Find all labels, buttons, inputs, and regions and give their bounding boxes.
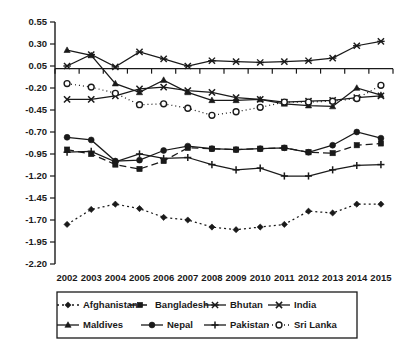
data-point [137, 166, 142, 171]
data-point [330, 150, 335, 155]
legend-marker [137, 302, 142, 307]
x-tick-label: 2013 [322, 272, 343, 283]
x-tick-label: 2011 [274, 272, 295, 283]
y-tick-label: 0.05 [29, 60, 48, 71]
y-tick-label: -1.95 [25, 236, 47, 247]
x-tick-label: 2004 [105, 272, 127, 283]
data-point [64, 134, 70, 140]
legend-label: Sri Lanka [294, 319, 337, 330]
data-point [185, 143, 191, 149]
legend-label: India [294, 299, 317, 310]
data-point [354, 96, 360, 102]
chart-figure: 0.550.300.05-0.20-0.45-0.70-0.95-1.20-1.… [0, 0, 405, 350]
chart-legend: AfghanistanBangladeshBhutanIndiaMaldives… [57, 292, 357, 338]
data-point [378, 141, 383, 146]
y-tick-label: -1.20 [25, 170, 47, 181]
data-point [88, 84, 94, 90]
y-tick-label: 0.55 [29, 16, 48, 27]
y-tick-label: -0.70 [25, 126, 47, 137]
x-tick-label: 2008 [201, 272, 222, 283]
x-tick-label: 2010 [250, 272, 271, 283]
data-point [88, 137, 94, 143]
data-point [112, 90, 118, 96]
y-tick-label: -0.45 [25, 104, 47, 115]
data-point [378, 82, 384, 88]
data-point [257, 146, 263, 152]
legend-label: Bangladesh [155, 299, 209, 310]
x-tick-label: 2003 [81, 272, 102, 283]
legend-marker [276, 322, 282, 328]
x-tick-label: 2007 [177, 272, 198, 283]
data-point [233, 109, 239, 115]
data-point [306, 99, 312, 105]
data-point [354, 129, 360, 135]
data-point [257, 104, 263, 110]
data-point [354, 143, 359, 148]
data-point [209, 146, 215, 152]
data-point [161, 101, 167, 107]
data-point [378, 135, 384, 141]
y-tick-label: -0.95 [25, 148, 47, 159]
y-tick-label: -2.20 [25, 258, 47, 269]
x-tick-label: 2006 [153, 272, 174, 283]
data-point [306, 149, 312, 155]
x-tick-label: 2014 [346, 272, 368, 283]
data-point [64, 81, 70, 87]
line-chart-svg: 0.550.300.05-0.20-0.45-0.70-0.95-1.20-1.… [0, 0, 405, 350]
data-point [330, 98, 336, 104]
data-point [233, 147, 239, 153]
data-point [185, 105, 191, 111]
data-point [137, 102, 143, 108]
x-tick-label: 2012 [298, 272, 319, 283]
legend-label: Afghanistan [83, 299, 138, 310]
data-point [161, 148, 167, 154]
data-point [137, 157, 143, 163]
legend-label: Bhutan [230, 299, 263, 310]
legend-label: Nepal [167, 319, 193, 330]
x-tick-label: 2009 [226, 272, 247, 283]
data-point [281, 99, 287, 105]
y-tick-label: -1.70 [25, 214, 47, 225]
x-tick-label: 2015 [370, 272, 392, 283]
x-tick-label: 2002 [57, 272, 78, 283]
y-tick-label: -1.45 [25, 192, 47, 203]
data-point [330, 142, 336, 148]
legend-marker [149, 322, 155, 328]
y-tick-label: -0.20 [25, 82, 47, 93]
legend-label: Maldives [83, 319, 123, 330]
y-tick-label: 0.30 [29, 38, 48, 49]
data-point [209, 112, 215, 118]
legend-label: Pakistan [230, 319, 269, 330]
x-tick-label: 2005 [129, 272, 151, 283]
data-point [281, 145, 287, 151]
